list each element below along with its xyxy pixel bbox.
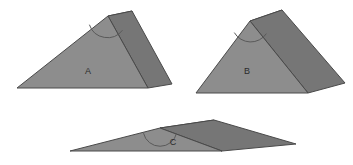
solid-a-label: A — [85, 66, 91, 76]
solid-b-label: B — [244, 66, 250, 76]
geometry-figure: A B C — [0, 0, 353, 165]
solids-canvas: A B C — [0, 0, 353, 165]
solid-c-label: C — [170, 137, 177, 147]
